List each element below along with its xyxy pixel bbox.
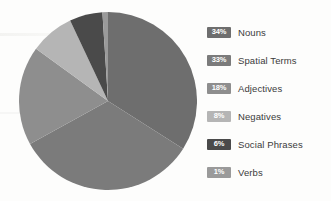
legend-item[interactable]: 6%Social Phrases — [207, 130, 327, 158]
legend-label: Social Phrases — [238, 139, 303, 150]
legend-label: Verbs — [238, 167, 263, 178]
chart-legend: 34%Nouns33%Spatial Terms18%Adjectives8%N… — [207, 18, 327, 186]
legend-item[interactable]: 1%Verbs — [207, 158, 327, 186]
legend-item[interactable]: 33%Spatial Terms — [207, 46, 327, 74]
legend-swatch: 1% — [207, 167, 231, 178]
legend-swatch: 34% — [207, 27, 231, 38]
legend-item[interactable]: 8%Negatives — [207, 102, 327, 130]
legend-item[interactable]: 18%Adjectives — [207, 74, 327, 102]
legend-percent: 33% — [212, 56, 226, 64]
legend-label: Spatial Terms — [238, 55, 297, 66]
legend-swatch: 6% — [207, 139, 231, 150]
legend-percent: 8% — [214, 112, 224, 120]
legend-label: Nouns — [238, 27, 266, 38]
pie-chart-figure: 34%Nouns33%Spatial Terms18%Adjectives8%N… — [0, 0, 331, 201]
legend-percent: 1% — [214, 168, 224, 176]
pie-svg — [19, 9, 197, 193]
pie-slice-group — [19, 12, 197, 190]
pie-graphic — [19, 9, 197, 193]
legend-label: Adjectives — [238, 83, 282, 94]
legend-swatch: 18% — [207, 83, 231, 94]
legend-percent: 34% — [212, 28, 226, 36]
legend-swatch: 8% — [207, 111, 231, 122]
legend-swatch: 33% — [207, 55, 231, 66]
legend-percent: 6% — [214, 140, 224, 148]
legend-item[interactable]: 34%Nouns — [207, 18, 327, 46]
legend-label: Negatives — [238, 111, 281, 122]
legend-percent: 18% — [212, 84, 226, 92]
